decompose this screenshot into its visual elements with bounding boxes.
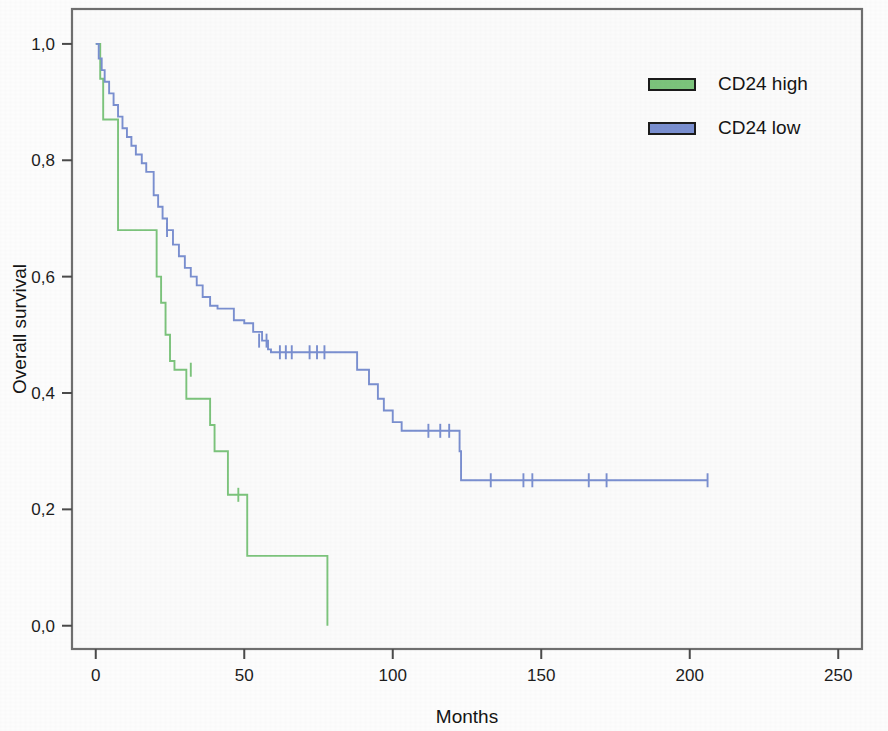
- legend-swatch-cd24-high: [648, 78, 696, 91]
- x-axis-tick-label: 50: [235, 666, 254, 685]
- y-axis-tick-label: 0,0: [31, 617, 55, 636]
- legend-item-cd24-high: CD24 high: [648, 62, 808, 106]
- legend-label-cd24-low: CD24 low: [718, 117, 800, 139]
- x-axis-tick-label: 250: [824, 666, 852, 685]
- legend-item-cd24-low: CD24 low: [648, 106, 808, 150]
- y-axis-tick-label: 1,0: [31, 35, 55, 54]
- legend-swatch-cd24-low: [648, 122, 696, 135]
- y-axis-tick-label: 0,6: [31, 268, 55, 287]
- y-axis-tick-label: 0,4: [31, 384, 55, 403]
- y-axis-tick-label: 0,8: [31, 151, 55, 170]
- kaplan-meier-figure: 0501001502002500,00,20,40,60,81,0MonthsO…: [0, 0, 888, 731]
- x-axis-tick-label: 0: [91, 666, 100, 685]
- y-axis-title: Overall survival: [9, 264, 30, 394]
- x-axis-tick-label: 200: [676, 666, 704, 685]
- y-axis-tick-label: 0,2: [31, 500, 55, 519]
- svg-text:Overall survival: Overall survival: [9, 264, 30, 394]
- legend-label-cd24-high: CD24 high: [718, 73, 808, 95]
- x-axis-tick-label: 100: [379, 666, 407, 685]
- x-axis-title: Months: [436, 706, 498, 727]
- chart-legend: CD24 high CD24 low: [648, 62, 808, 150]
- x-axis-tick-label: 150: [527, 666, 555, 685]
